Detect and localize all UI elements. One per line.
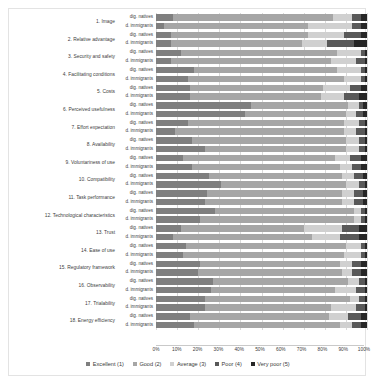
group-label: d. immigrants (119, 110, 153, 119)
category-label: 4. Facilitating conditions (9, 66, 119, 84)
stacked-bar (156, 322, 367, 328)
category-row: 18. Energy efficiencydig. nativesd. immi… (9, 312, 367, 330)
bar-segment (365, 296, 367, 302)
bar-segment (335, 155, 350, 161)
bar-segment (361, 14, 367, 20)
bar-segment (211, 287, 335, 293)
bar-segment (156, 296, 205, 302)
bar-segment (156, 190, 207, 196)
bar-segment (365, 120, 367, 126)
bars-column (156, 189, 367, 207)
bar-segment (304, 225, 342, 231)
category-row: 17. Trialabilitydig. nativesd. immigrant… (9, 295, 367, 313)
stacked-bar (156, 128, 367, 134)
category-row: 7. Effort expectationdig. nativesd. immi… (9, 119, 367, 137)
bar-segment (365, 278, 367, 284)
bars-column (156, 13, 367, 31)
legend-item[interactable]: Good (2) (133, 361, 162, 367)
bar-segment (363, 173, 367, 179)
bar-segment (359, 225, 367, 231)
category-row: 2. Relative advantagedig. nativesd. immi… (9, 31, 367, 49)
legend-label: Good (2) (139, 361, 161, 367)
group-label: dig. natives (119, 260, 153, 269)
bar-segment (205, 146, 346, 152)
bar-segment (245, 111, 346, 117)
stacked-bar (156, 278, 367, 284)
bar-segment (205, 304, 332, 310)
x-axis: 0%10%20%30%40%50%60%70%80%90%100% (156, 345, 367, 357)
bar-segment (348, 313, 361, 319)
x-tick-label: 80% (318, 347, 328, 352)
bar-segment (365, 216, 367, 222)
stacked-bar (156, 23, 367, 29)
stacked-bar (156, 137, 367, 143)
group-label-column: dig. nativesd. immigrants (119, 31, 156, 49)
x-tick-label: 100% (358, 347, 370, 352)
category-row: 11. Task performancedig. nativesd. immig… (9, 189, 367, 207)
bar-segment (356, 128, 364, 134)
bar-segment (156, 287, 211, 293)
bars-column (156, 48, 367, 66)
category-row: 16. Observabilitydig. nativesd. immigran… (9, 277, 367, 295)
stacked-bar (156, 146, 367, 152)
bar-segment (352, 164, 360, 170)
bar-segment (342, 190, 355, 196)
legend-label: Very poor (5) (257, 361, 289, 367)
bar-segment (344, 128, 357, 134)
group-label-column: dig. nativesd. immigrants (119, 13, 156, 31)
chart-legend: Excellent (1)Good (2)Average (3)Poor (4)… (9, 361, 367, 367)
bar-segment (363, 102, 367, 108)
bar-segment (344, 32, 361, 38)
bar-segment (352, 23, 360, 29)
stacked-bar (156, 67, 367, 73)
bar-segment (361, 32, 367, 38)
legend-item[interactable]: Poor (4) (215, 361, 242, 367)
stacked-bar (156, 296, 367, 302)
bar-segment (361, 23, 367, 29)
bar-segment (200, 216, 354, 222)
group-label: d. immigrants (119, 22, 153, 31)
bar-segment (215, 208, 354, 214)
bar-segment (344, 76, 361, 82)
group-label: d. immigrants (119, 163, 153, 172)
bars-column (156, 171, 367, 189)
category-label: 6. Perceived usefulness (9, 101, 119, 119)
legend-item[interactable]: Excellent (1) (86, 361, 124, 367)
category-label: 9. Voluntariness of use (9, 154, 119, 172)
bar-segment (156, 269, 198, 275)
bar-segment (190, 93, 321, 99)
legend-item[interactable]: Very poor (5) (251, 361, 290, 367)
bar-segment (329, 313, 348, 319)
bars-column (156, 242, 367, 260)
stacked-bar (156, 181, 367, 187)
group-label-column: dig. nativesd. immigrants (119, 189, 156, 207)
bar-segment (188, 76, 344, 82)
category-row: 3. Security and safetydig. nativesd. imm… (9, 48, 367, 66)
group-label-column: dig. nativesd. immigrants (119, 48, 156, 66)
category-label: 13. Trust (9, 224, 119, 242)
bar-segment (156, 322, 194, 328)
bar-segment (365, 287, 367, 293)
bar-segment (361, 164, 367, 170)
category-row: 10. Compatibilitydig. nativesd. immigran… (9, 171, 367, 189)
legend-label: Poor (4) (222, 361, 242, 367)
bar-segment (346, 243, 361, 249)
group-label: d. immigrants (119, 145, 153, 154)
group-label-column: dig. nativesd. immigrants (119, 101, 156, 119)
bar-segment (156, 304, 205, 310)
bar-segment (344, 120, 359, 126)
legend-swatch-icon (133, 362, 137, 366)
stacked-bar (156, 102, 367, 108)
group-label: dig. natives (119, 48, 153, 57)
bar-segment (156, 208, 215, 214)
bar-segment (331, 58, 356, 64)
category-row: 8. Availabilitydig. nativesd. immigrants (9, 136, 367, 154)
bar-segment (308, 23, 352, 29)
bar-segment (156, 111, 245, 117)
bar-segment (194, 322, 340, 328)
bar-segment (190, 313, 329, 319)
bar-segment (156, 67, 194, 73)
bar-segment (156, 32, 171, 38)
bars-column (156, 136, 367, 154)
legend-item[interactable]: Average (3) (170, 361, 206, 367)
